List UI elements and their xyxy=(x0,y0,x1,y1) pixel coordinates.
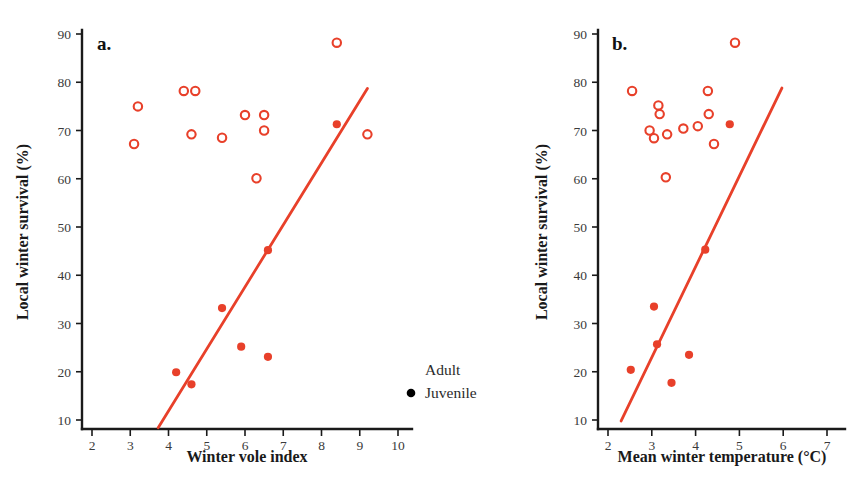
data-point-juvenile xyxy=(172,368,180,376)
data-point-adult xyxy=(130,140,138,148)
data-point-adult xyxy=(333,38,341,46)
data-point-juvenile xyxy=(237,343,245,351)
caption-cropped-text xyxy=(0,483,867,497)
data-point-adult xyxy=(191,87,199,95)
panel-a-ytick-label: 70 xyxy=(58,124,72,139)
data-point-adult xyxy=(731,38,739,46)
panel-b-ylabel: Local winter survival (%) xyxy=(533,144,551,320)
data-point-adult xyxy=(363,130,371,138)
data-point-adult xyxy=(260,126,268,134)
panel-a-xtick-label: 9 xyxy=(356,438,363,453)
legend-adult-marker-icon xyxy=(407,366,416,375)
figure-scatter-panels: a. 102030405060708090 2345678910 Winter … xyxy=(0,0,867,497)
legend-juvenile-label: Juvenile xyxy=(425,384,477,401)
data-point-adult xyxy=(252,174,260,182)
legend-adult-label: Adult xyxy=(425,361,461,378)
data-point-adult xyxy=(655,110,663,118)
data-point-juvenile xyxy=(264,353,272,361)
panel-a-letter: a. xyxy=(97,33,111,54)
panel-a-y-ticks: 102030405060708090 xyxy=(58,27,83,428)
panel-a-points-adult xyxy=(130,38,372,182)
panel-a-ytick-label: 20 xyxy=(58,365,72,380)
panel-a-regression-line xyxy=(158,89,367,428)
data-point-juvenile xyxy=(218,304,226,312)
panel-a: a. 102030405060708090 2345678910 Winter … xyxy=(14,27,412,465)
panel-a-xtick-label: 3 xyxy=(127,438,134,453)
data-point-adult xyxy=(218,134,226,142)
data-point-juvenile xyxy=(667,379,675,387)
panel-a-ytick-label: 10 xyxy=(58,413,72,428)
data-point-adult xyxy=(260,111,268,119)
panel-a-ylabel: Local winter survival (%) xyxy=(14,144,32,320)
data-point-adult xyxy=(679,124,687,132)
panel-b-ytick-label: 70 xyxy=(574,124,588,139)
panel-b-ytick-label: 20 xyxy=(574,365,588,380)
data-point-adult xyxy=(134,102,142,110)
panel-b-letter: b. xyxy=(612,33,627,54)
panel-b-xtick-label: 2 xyxy=(605,438,612,453)
panel-b-points-adult xyxy=(628,38,739,181)
panel-b-y-ticks: 102030405060708090 xyxy=(574,27,599,428)
panel-a-xtick-label: 8 xyxy=(318,438,325,453)
data-point-juvenile xyxy=(627,366,635,374)
data-point-juvenile xyxy=(333,120,341,128)
panel-b-ytick-label: 10 xyxy=(574,413,588,428)
panel-a-ytick-label: 90 xyxy=(58,27,72,42)
panel-a-fit-line xyxy=(158,89,367,428)
panel-a-xtick-label: 4 xyxy=(165,438,172,453)
data-point-juvenile xyxy=(653,340,661,348)
data-point-juvenile xyxy=(726,120,734,128)
data-point-adult xyxy=(628,87,636,95)
data-point-juvenile xyxy=(701,246,709,254)
panel-b-ytick-label: 90 xyxy=(574,27,588,42)
data-point-adult xyxy=(663,130,671,138)
panel-b: b. 102030405060708090 234567 Mean winter… xyxy=(533,27,845,466)
panel-a-ytick-label: 80 xyxy=(58,75,72,90)
data-point-adult xyxy=(654,101,662,109)
panel-b-ytick-label: 60 xyxy=(574,172,588,187)
panel-b-ytick-label: 30 xyxy=(574,317,588,332)
data-point-juvenile xyxy=(650,303,658,311)
panel-b-ytick-label: 80 xyxy=(574,75,588,90)
panel-b-regression-line xyxy=(621,88,782,421)
legend-juvenile-marker-icon xyxy=(407,389,416,398)
panel-a-ytick-label: 50 xyxy=(58,220,72,235)
panel-a-ytick-label: 30 xyxy=(58,317,72,332)
panel-a-ytick-label: 40 xyxy=(58,268,72,283)
panel-b-ytick-label: 50 xyxy=(574,220,588,235)
panel-a-points-juvenile xyxy=(172,120,341,388)
data-point-juvenile xyxy=(264,246,272,254)
panel-a-xlabel: Winter vole index xyxy=(186,448,307,465)
data-point-adult xyxy=(662,173,670,181)
data-point-juvenile xyxy=(685,351,693,359)
data-point-adult xyxy=(704,87,712,95)
panel-b-points-juvenile xyxy=(627,120,734,387)
panel-a-ytick-label: 60 xyxy=(58,172,72,187)
data-point-adult xyxy=(710,140,718,148)
data-point-adult xyxy=(187,130,195,138)
data-point-adult xyxy=(705,110,713,118)
panel-a-xtick-label: 2 xyxy=(89,438,96,453)
data-point-adult xyxy=(180,87,188,95)
data-point-adult xyxy=(694,122,702,130)
panel-b-fit-line xyxy=(621,88,782,421)
panel-b-xlabel: Mean winter temperature (°C) xyxy=(618,448,827,466)
panel-a-xtick-label: 10 xyxy=(391,438,405,453)
legend: Adult Juvenile xyxy=(407,361,477,401)
panel-b-ytick-label: 40 xyxy=(574,268,588,283)
data-point-juvenile xyxy=(187,380,195,388)
data-point-adult xyxy=(241,111,249,119)
data-point-adult xyxy=(650,134,658,142)
